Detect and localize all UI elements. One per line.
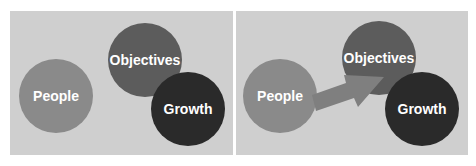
people-label: People — [257, 88, 303, 104]
people-label: People — [33, 88, 79, 104]
panel-before: People Objectives Growth — [10, 11, 233, 155]
panel-after: People Objectives Growth — [236, 11, 468, 155]
diagram-after: People Objectives Growth — [236, 11, 468, 155]
growth-label: Growth — [164, 101, 213, 117]
growth-label: Growth — [398, 101, 447, 117]
objectives-label: Objectives — [344, 50, 415, 66]
diagram-before: People Objectives Growth — [10, 11, 233, 155]
objectives-label: Objectives — [110, 52, 181, 68]
